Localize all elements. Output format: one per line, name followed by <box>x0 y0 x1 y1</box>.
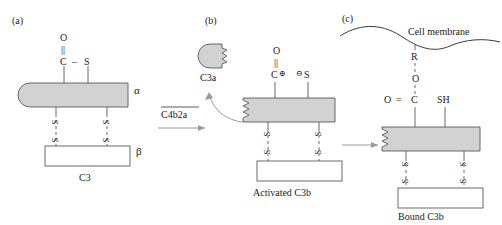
thioester-double-bond-a: || <box>61 45 65 55</box>
ester-bond-lower <box>360 85 502 99</box>
disulfide-sulfur-left-top-a: S <box>51 120 60 125</box>
beta-chain-label-a: β <box>136 146 142 157</box>
thioester-oxygen-a: O <box>60 33 67 43</box>
disulfide-sulfur-left-bottom-a: S <box>51 138 60 143</box>
thiolate-sulfur-b: S <box>304 70 310 80</box>
thioester-oxygen-b: O <box>273 46 280 56</box>
disulfide-sulfur-right-top-a: S <box>102 120 111 125</box>
bound-c3b-chain-diagram-c <box>360 105 502 210</box>
carbocation-carbon-b: C <box>271 70 278 80</box>
disulfide-sulfur-right-bottom-c: S <box>459 179 468 184</box>
c3-chain-diagram-a <box>0 60 150 170</box>
alpha-chain-label-a: α <box>134 85 140 96</box>
activated-alpha-chain-body-b <box>243 98 335 122</box>
complement-c3-activation-figure: (a) O || C – S S S S S α β C3 C4b2a (b) … <box>0 0 502 225</box>
disulfide-sulfur-left-top-b: S <box>263 132 272 137</box>
thioester-double-bond-b: || <box>274 58 278 68</box>
disulfide-sulfur-right-top-b: S <box>314 132 323 137</box>
disulfide-sulfur-left-top-c: S <box>401 162 410 167</box>
beta-chain-body-b <box>257 161 342 181</box>
beta-chain-body-a <box>45 146 130 166</box>
bound-alpha-chain-body-c <box>382 127 480 151</box>
alpha-chain-body-a <box>18 83 128 107</box>
disulfide-sulfur-right-bottom-b: S <box>314 150 323 155</box>
panel-caption-c: Bound C3b <box>398 212 444 222</box>
panel-caption-a: C3 <box>79 173 91 183</box>
disulfide-sulfur-right-top-c: S <box>459 162 468 167</box>
panel-caption-b: Activated C3b <box>253 188 311 198</box>
thiolate-charge-b: ⊖ <box>296 70 303 78</box>
cell-membrane-label: Cell membrane <box>408 27 469 37</box>
release-arrow-head <box>205 92 213 100</box>
disulfide-sulfur-left-bottom-b: S <box>263 150 272 155</box>
disulfide-sulfur-right-bottom-a: S <box>102 138 111 143</box>
panel-label-b: (b) <box>205 16 217 26</box>
membrane-linkage-bonds <box>360 45 502 75</box>
c3b-chain-diagram-b <box>235 80 355 185</box>
c3a-fragment-shape <box>198 42 234 70</box>
c3a-fragment-body <box>198 44 227 68</box>
beta-chain-body-c <box>398 188 483 208</box>
panel-label-a: (a) <box>12 16 23 26</box>
c3a-fragment-label: C3a <box>200 73 216 83</box>
disulfide-sulfur-left-bottom-c: S <box>401 179 410 184</box>
ester-oxygen-c: O <box>412 74 419 84</box>
carbocation-charge-b: ⊕ <box>279 70 286 78</box>
